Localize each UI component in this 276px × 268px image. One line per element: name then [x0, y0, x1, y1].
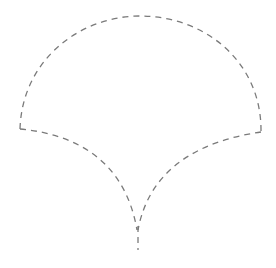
leaf-right-inner-curve: [138, 132, 261, 230]
leaf-outline-svg: [0, 0, 276, 268]
ginkgo-leaf-diagram: [0, 0, 276, 268]
leaf-left-inner-curve: [20, 129, 137, 230]
leaf-top-arc: [20, 16, 261, 132]
